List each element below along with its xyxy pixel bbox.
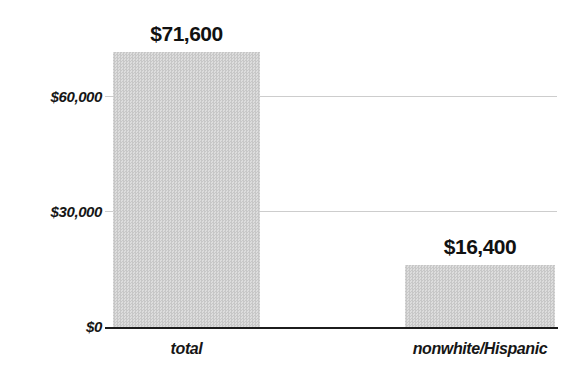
bar-value-label-nonwhite-hispanic: $16,400	[405, 236, 555, 258]
x-axis-line	[105, 327, 558, 329]
bar-total	[113, 52, 260, 328]
y-tick-label-60000: $60,000	[0, 89, 102, 105]
x-category-label-nonwhite-hispanic: nonwhite/Hispanic	[405, 340, 555, 358]
y-tick-label-0: $0	[0, 319, 102, 335]
bar-chart: $60,000 $30,000 $0 $71,600 $16,400 total…	[0, 0, 588, 380]
bar-value-label-total: $71,600	[113, 23, 260, 45]
y-tick-label-30000: $30,000	[0, 204, 102, 220]
x-category-label-total: total	[113, 340, 260, 358]
bar-nonwhite-hispanic	[405, 265, 555, 328]
